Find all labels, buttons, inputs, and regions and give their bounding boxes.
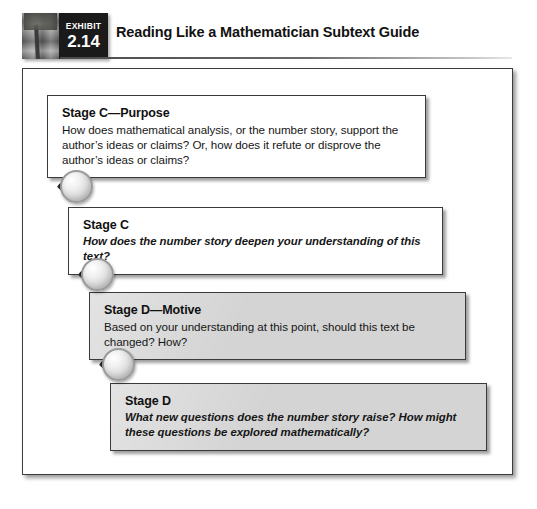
- exhibit-header: EXHIBIT 2.14 Reading Like a Mathematicia…: [0, 0, 537, 68]
- stage-card-stage-c: Stage C How does the number story deepen…: [68, 207, 443, 275]
- stage-card-title: Stage C: [83, 217, 428, 233]
- tree-photo-icon: [22, 13, 59, 59]
- stage-card-title: Stage D: [125, 393, 472, 409]
- header-divider: [60, 57, 512, 59]
- stage-card-title: Stage C—Purpose: [62, 105, 411, 121]
- stage-card-body: Based on your understanding at this poin…: [104, 319, 451, 349]
- stage-card-body: How does the number story deepen your un…: [83, 234, 428, 264]
- exhibit-badge: EXHIBIT 2.14: [22, 13, 108, 59]
- stage-card-stage-c-purpose: Stage C—Purpose How does mathematical an…: [47, 95, 426, 178]
- stage-card-title: Stage D—Motive: [104, 302, 451, 318]
- exhibit-badge-label: EXHIBIT: [59, 21, 108, 31]
- stage-card-stage-d: Stage D What new questions does the numb…: [110, 383, 487, 451]
- stage-card-body: How does mathematical analysis, or the n…: [62, 122, 411, 167]
- exhibit-badge-text: EXHIBIT 2.14: [59, 13, 108, 59]
- exhibit-badge-number: 2.14: [59, 32, 108, 52]
- stage-card-body: What new questions does the number story…: [125, 410, 472, 440]
- stage-card-stage-d-motive: Stage D—Motive Based on your understandi…: [89, 292, 466, 360]
- page-title: Reading Like a Mathematician Subtext Gui…: [116, 24, 419, 40]
